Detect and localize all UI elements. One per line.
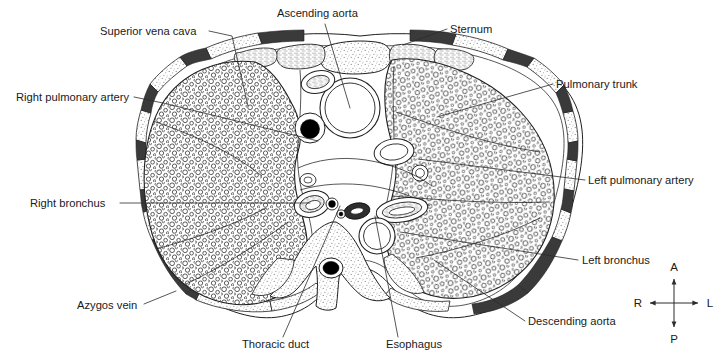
label-text-thoracic-duct: Thoracic duct	[242, 338, 310, 350]
label-text-pulmonary-trunk: Pulmonary trunk	[556, 78, 638, 90]
thorax-cross-section-figure: Superior vena cavaAscending aortaSternum…	[0, 0, 723, 361]
thoracic-duct-lumen	[339, 212, 343, 216]
costal-cartilage-right	[276, 44, 325, 69]
spinal-cord	[323, 262, 339, 275]
label-text-sternum: Sternum	[450, 23, 492, 35]
label-text-left-pulmonary-artery: Left pulmonary artery	[588, 174, 694, 186]
label-text-superior-vena-cava: Superior vena cava	[100, 25, 197, 37]
sternum	[320, 41, 391, 74]
anatomy-illustration: Superior vena cavaAscending aortaSternum…	[0, 0, 723, 361]
label-text-descending-aorta: Descending aorta	[528, 315, 616, 327]
label-text-esophagus: Esophagus	[386, 338, 442, 350]
label-text-azygos-vein: Azygos vein	[77, 299, 137, 311]
label-text-right-pulmonary-artery: Right pulmonary artery	[16, 91, 130, 103]
intercostal-muscle-left-4	[567, 141, 578, 161]
compass-label-posterior: P	[670, 333, 678, 345]
compass-label-right: R	[634, 297, 642, 309]
label-text-ascending-aorta: Ascending aorta	[277, 7, 359, 19]
label-text-right-bronchus: Right bronchus	[30, 197, 106, 209]
small-mediastinal-vessel-lumen	[304, 177, 312, 183]
azygos-vein-lumen	[329, 201, 336, 208]
compass-label-left: L	[707, 297, 714, 309]
superior-vena-cava-lumen	[301, 120, 320, 139]
compass-label-anterior: A	[670, 261, 678, 273]
label-text-left-bronchus: Left bronchus	[582, 254, 650, 266]
